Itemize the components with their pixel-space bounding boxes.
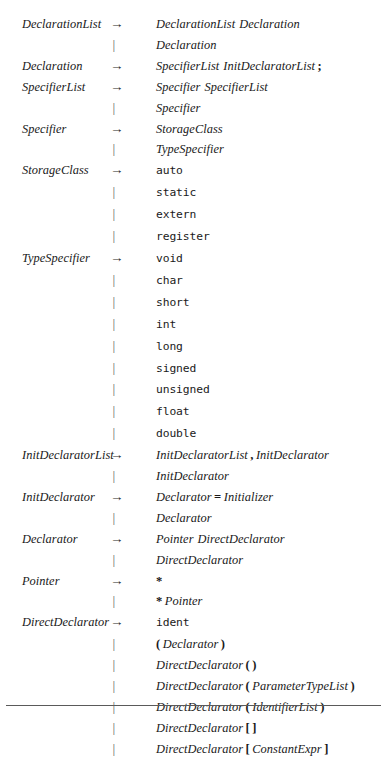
production-rhs: auto bbox=[156, 160, 387, 182]
production-rhs: DirectDeclarator bbox=[156, 550, 387, 571]
production-rule-row: |static bbox=[0, 182, 387, 204]
alternation-bar-icon: | bbox=[113, 657, 116, 672]
production-operator-cell: | bbox=[110, 139, 156, 160]
production-rhs: ident bbox=[156, 612, 387, 634]
nonterminal-lhs-empty bbox=[0, 739, 110, 760]
production-operator-cell: | bbox=[110, 98, 156, 119]
nonterminal-lhs: DirectDeclarator bbox=[0, 612, 110, 634]
nonterminal-lhs: InitDeclarator bbox=[0, 487, 110, 508]
production-rule-row: Declaration→SpecifierListInitDeclaratorL… bbox=[0, 56, 387, 77]
production-operator-cell: | bbox=[110, 634, 156, 655]
production-rhs: SpecifierListInitDeclaratorList; bbox=[156, 56, 387, 77]
production-rule-row: |short bbox=[0, 292, 387, 314]
alternation-bar-icon: | bbox=[113, 636, 116, 651]
production-rule-row: |signed bbox=[0, 358, 387, 380]
production-rhs: (Declarator) bbox=[156, 634, 387, 655]
nonterminal-lhs: Declarator bbox=[0, 529, 110, 550]
alternation-bar-icon: | bbox=[113, 360, 116, 375]
nonterminal-lhs-empty bbox=[0, 550, 110, 571]
production-operator-cell: | bbox=[110, 292, 156, 314]
production-rule-row: |int bbox=[0, 314, 387, 336]
production-rule-row: Pointer→* bbox=[0, 571, 387, 592]
alternation-bar-icon: | bbox=[113, 100, 116, 115]
production-operator-cell: → bbox=[110, 119, 156, 140]
production-operator-cell: | bbox=[110, 379, 156, 401]
terminal-punctuation: [ bbox=[246, 721, 250, 735]
production-rhs: unsigned bbox=[156, 379, 387, 401]
nonterminal-lhs-empty bbox=[0, 182, 110, 204]
production-rule-row: |char bbox=[0, 270, 387, 292]
nonterminal-lhs-empty bbox=[0, 336, 110, 358]
production-operator-cell: | bbox=[110, 697, 156, 718]
terminal-punctuation: , bbox=[250, 448, 253, 462]
nonterminal-lhs: StorageClass bbox=[0, 160, 110, 182]
produces-arrow-icon: → bbox=[110, 79, 124, 94]
production-rhs: Declarator bbox=[156, 508, 387, 529]
nonterminal-lhs-empty bbox=[0, 314, 110, 336]
nonterminal-lhs-empty bbox=[0, 697, 110, 718]
terminal-keyword: long bbox=[156, 340, 183, 353]
nonterminal-symbol: DirectDeclarator bbox=[156, 700, 243, 714]
nonterminal-symbol: ConstantExpr bbox=[252, 742, 321, 756]
production-operator-cell: | bbox=[110, 508, 156, 529]
nonterminal-lhs-empty bbox=[0, 292, 110, 314]
nonterminal-symbol: SpecifierList bbox=[156, 59, 219, 73]
terminal-keyword: static bbox=[156, 186, 196, 199]
nonterminal-symbol: Pointer bbox=[156, 532, 194, 546]
terminal-punctuation: [ bbox=[246, 742, 250, 756]
production-rhs: double bbox=[156, 423, 387, 445]
production-rhs: PointerDirectDeclarator bbox=[156, 529, 387, 550]
production-rule-table: DeclarationList→DeclarationListDeclarati… bbox=[0, 14, 387, 760]
produces-arrow-icon: → bbox=[110, 573, 124, 588]
nonterminal-lhs-empty bbox=[0, 35, 110, 56]
production-rhs: DirectDeclarator(ParameterTypeList) bbox=[156, 676, 387, 697]
nonterminal-symbol: Initializer bbox=[224, 490, 273, 504]
production-rhs: DirectDeclarator[ConstantExpr] bbox=[156, 739, 387, 760]
production-operator-cell: → bbox=[110, 14, 156, 35]
nonterminal-lhs: SpecifierList bbox=[0, 77, 110, 98]
nonterminal-symbol: DirectDeclarator bbox=[156, 658, 243, 672]
nonterminal-symbol: Specifier bbox=[156, 80, 201, 94]
terminal-punctuation: ] bbox=[324, 742, 328, 756]
production-rule-row: |(Declarator) bbox=[0, 634, 387, 655]
production-rule-row: InitDeclarator→Declarator=Initializer bbox=[0, 487, 387, 508]
production-operator-cell: | bbox=[110, 182, 156, 204]
nonterminal-lhs-empty bbox=[0, 676, 110, 697]
nonterminal-symbol: DirectDeclarator bbox=[156, 553, 243, 567]
terminal-keyword: auto bbox=[156, 164, 183, 177]
nonterminal-symbol: Declarator bbox=[156, 490, 212, 504]
production-rhs: Declaration bbox=[156, 35, 387, 56]
alternation-bar-icon: | bbox=[113, 272, 116, 287]
production-rule-row: StorageClass→auto bbox=[0, 160, 387, 182]
production-rhs: InitDeclaratorList,InitDeclarator bbox=[156, 445, 387, 466]
production-rule-row: |DirectDeclarator() bbox=[0, 655, 387, 676]
terminal-punctuation: ( bbox=[156, 637, 160, 651]
production-rhs: * bbox=[156, 571, 387, 592]
nonterminal-symbol: DirectDeclarator bbox=[156, 721, 243, 735]
nonterminal-lhs: Declaration bbox=[0, 56, 110, 77]
terminal-punctuation: ( bbox=[246, 658, 250, 672]
nonterminal-lhs-empty bbox=[0, 139, 110, 160]
nonterminal-symbol: InitDeclaratorList bbox=[156, 448, 248, 462]
production-rule-row: |long bbox=[0, 336, 387, 358]
production-rhs: int bbox=[156, 314, 387, 336]
terminal-punctuation: * bbox=[156, 574, 162, 588]
production-rule-list: DeclarationList→DeclarationListDeclarati… bbox=[0, 14, 387, 760]
alternation-bar-icon: | bbox=[113, 381, 116, 396]
terminal-punctuation: ) bbox=[350, 679, 354, 693]
terminal-keyword: void bbox=[156, 252, 183, 265]
nonterminal-lhs-empty bbox=[0, 204, 110, 226]
terminal-punctuation: * bbox=[156, 594, 162, 608]
alternation-bar-icon: | bbox=[113, 552, 116, 567]
nonterminal-symbol: SpecifierList bbox=[205, 80, 268, 94]
production-rhs: long bbox=[156, 336, 387, 358]
production-rule-row: InitDeclaratorList→InitDeclaratorList,In… bbox=[0, 445, 387, 466]
produces-arrow-icon: → bbox=[110, 614, 124, 629]
production-operator-cell: | bbox=[110, 739, 156, 760]
production-rhs: InitDeclarator bbox=[156, 466, 387, 487]
production-rule-row: |*Pointer bbox=[0, 591, 387, 612]
alternation-bar-icon: | bbox=[113, 184, 116, 199]
alternation-bar-icon: | bbox=[113, 720, 116, 735]
terminal-punctuation: ; bbox=[318, 59, 322, 73]
